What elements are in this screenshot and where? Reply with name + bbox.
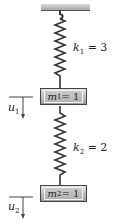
u2-subscript: 2 — [15, 207, 19, 215]
displacement-u2-label: u2 — [8, 200, 20, 215]
displacement-u1-label: u1 — [8, 101, 20, 116]
u1-subscript: 1 — [15, 108, 19, 116]
